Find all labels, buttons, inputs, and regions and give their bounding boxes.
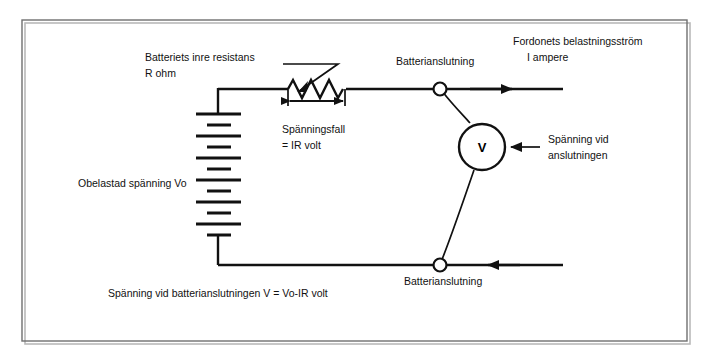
- battery-terminal-bottom-label: Batterianslutning: [404, 275, 482, 287]
- variable-resistor-symbol: [283, 64, 343, 98]
- voltmeter-lead-top: [442, 91, 470, 123]
- voltmeter-label: V: [478, 140, 487, 155]
- voltmeter-branch: V: [441, 91, 505, 262]
- voltage-drop-label-line1: Spänningsfall: [282, 123, 345, 135]
- terminal-voltage-label-line2: anslutningen: [548, 149, 608, 161]
- load-current-label-line1: Fordonets belastningsström: [513, 35, 643, 47]
- terminal-voltage-label-line1: Spänning vid: [548, 133, 609, 145]
- battery-terminal-top-node: [434, 83, 447, 96]
- load-current-label-line2: I ampere: [527, 51, 569, 63]
- battery-terminal-top-label: Batterianslutning: [396, 55, 474, 67]
- internal-resistance-label-line1: Batteriets inre resistans: [145, 51, 255, 63]
- diagram-canvas: V Batteriets inre resistans R ohm Spänni…: [0, 0, 706, 361]
- circuit-diagram: V Batteriets inre resistans R ohm Spänni…: [0, 0, 706, 361]
- voltage-drop-label-line2: = IR volt: [282, 139, 321, 151]
- open-circuit-voltage-label: Obelastad spänning Vo: [78, 177, 187, 189]
- internal-resistance-label-line2: R ohm: [145, 67, 176, 79]
- voltmeter-lead-bottom: [441, 170, 474, 262]
- terminal-voltage-formula: Spänning vid batterianslutningen V = Vo-…: [108, 287, 328, 299]
- battery-terminal-bottom-node: [434, 259, 447, 272]
- battery-symbol: [196, 88, 241, 265]
